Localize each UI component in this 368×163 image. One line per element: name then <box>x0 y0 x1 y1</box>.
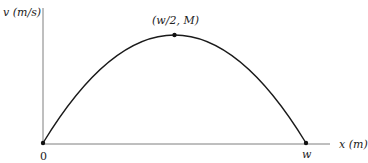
x-axis-label: x (m) <box>339 138 368 151</box>
origin-label: 0 <box>40 150 47 163</box>
peak-label: (w/2, M) <box>152 14 199 27</box>
end-point <box>304 141 308 145</box>
origin-point <box>41 141 45 145</box>
parabola-curve <box>43 35 306 143</box>
y-axis-label: v (m/s) <box>3 6 41 19</box>
peak-point <box>172 33 176 37</box>
end-label: w <box>302 148 311 161</box>
